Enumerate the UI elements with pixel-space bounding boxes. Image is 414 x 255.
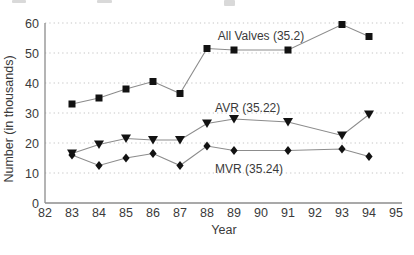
y-tick-labels: 0102030405060 — [25, 17, 39, 211]
x-tick-label: 88 — [200, 206, 214, 220]
series-label: All Valves (35.2) — [218, 29, 304, 43]
x-tick-label: 93 — [335, 206, 349, 220]
x-tick-label: 85 — [119, 206, 133, 220]
x-tick-label: 86 — [146, 206, 160, 220]
y-tick-label: 30 — [25, 107, 39, 121]
x-tick-label: 82 — [38, 206, 52, 220]
x-tick-label: 84 — [92, 206, 106, 220]
x-tick-label: 91 — [281, 206, 295, 220]
x-tick-label: 92 — [308, 206, 322, 220]
y-tick-label: 10 — [25, 167, 39, 181]
x-tick-label: 83 — [65, 206, 79, 220]
x-tick-label: 87 — [173, 206, 187, 220]
series-label: AVR (35.22) — [215, 101, 280, 115]
y-axis-title: Number (in thousands) — [2, 55, 16, 182]
y-tick-label: 40 — [25, 77, 39, 91]
y-tick-label: 50 — [25, 47, 39, 61]
x-axis-title: Year — [211, 223, 236, 237]
plot-area: 0102030405060828384858687888990919293949… — [25, 17, 404, 221]
x-tick-labels: 8283848586878889909192939495 — [38, 206, 403, 220]
y-tick-label: 60 — [25, 17, 39, 31]
series-label: MVR (35.24) — [215, 162, 283, 176]
y-tick-label: 20 — [25, 137, 39, 151]
x-tick-label: 90 — [254, 206, 268, 220]
series-avr — [67, 111, 374, 159]
x-tick-label: 94 — [362, 206, 376, 220]
line-chart-figure: 0102030405060828384858687888990919293949… — [0, 0, 414, 255]
x-tick-label: 95 — [389, 206, 403, 220]
chart: 0102030405060828384858687888990919293949… — [0, 0, 414, 255]
x-tick-label: 89 — [227, 206, 241, 220]
